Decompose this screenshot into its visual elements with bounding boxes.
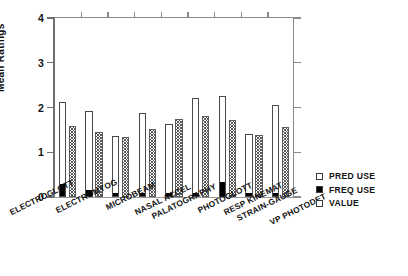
- y-tick-right-4: [294, 17, 301, 18]
- legend: PRED USEFREQ USEVALUE: [316, 170, 375, 211]
- y-tick-1: [47, 152, 54, 153]
- legend-label: VALUE: [329, 198, 359, 208]
- legend-item: FREQ USE: [316, 184, 375, 196]
- legend-item: VALUE: [316, 197, 375, 209]
- bar-value: [229, 120, 237, 197]
- bar-pred-use: [85, 111, 93, 197]
- y-tick-label-3: 3: [0, 57, 44, 69]
- bar-value: [122, 137, 130, 197]
- legend-swatch-filled: [316, 186, 323, 193]
- y-tick-2: [47, 107, 54, 108]
- legend-label: FREQ USE: [329, 185, 375, 195]
- bar-group: [161, 18, 188, 197]
- bar-group: [267, 18, 294, 197]
- legend-label: PRED USE: [329, 171, 375, 181]
- bar-group: [81, 18, 108, 197]
- bar-group: [107, 18, 134, 197]
- legend-swatch-open: [316, 173, 323, 180]
- y-tick-4: [47, 17, 54, 18]
- bar-pred-use: [165, 124, 173, 197]
- bar-group: [241, 18, 268, 197]
- y-tick-label-4: 4: [0, 12, 44, 24]
- bar-group: [134, 18, 161, 197]
- bar-group: [214, 18, 241, 197]
- legend-item: PRED USE: [316, 170, 375, 182]
- bar-pred-use: [192, 98, 200, 197]
- y-tick-right-1: [294, 152, 301, 153]
- chart-figure: Mean Ratings 01234 ELECTROGLOTTELECTROMY…: [0, 0, 408, 276]
- y-tick-right-0: [294, 196, 301, 197]
- bar-pred-use: [219, 96, 227, 197]
- bar-group: [54, 18, 81, 197]
- y-tick-3: [47, 62, 54, 63]
- y-tick-label-1: 1: [0, 146, 44, 158]
- plot-area: [54, 18, 294, 197]
- bar-group: [187, 18, 214, 197]
- y-tick-right-2: [294, 107, 301, 108]
- legend-swatch-open: [316, 200, 323, 207]
- y-tick-label-2: 2: [0, 102, 44, 114]
- y-tick-right-3: [294, 62, 301, 63]
